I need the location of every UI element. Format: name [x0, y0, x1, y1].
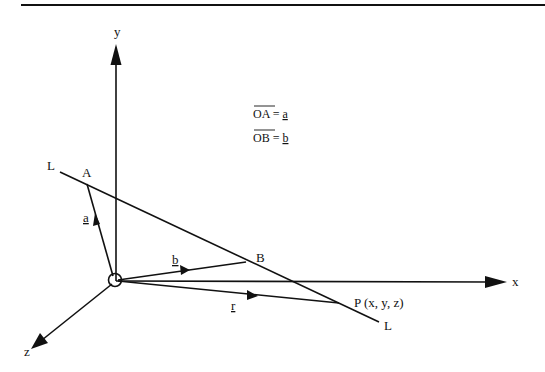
point-A-label: A — [82, 165, 92, 180]
svg-text:OB = b: OB = b — [253, 131, 288, 145]
vector-b: b — [118, 252, 246, 280]
y-axis-label: y — [114, 24, 121, 39]
vector-r-label: r — [231, 298, 236, 313]
equation-OA-rhs: a — [282, 107, 288, 121]
svg-text:OA = a: OA = a — [253, 107, 288, 121]
equation-OA: OA = a — [253, 106, 288, 121]
vector-r: r — [118, 281, 339, 313]
equation-OB-lhs: OB — [253, 131, 270, 145]
point-B-label: B — [256, 250, 265, 265]
diagram-canvas: y x z L L a A b — [0, 0, 545, 372]
vector-a: a — [83, 184, 113, 276]
vector-b-arrowhead-icon — [180, 265, 190, 275]
point-P-label: P (x, y, z) — [354, 295, 404, 310]
equation-OA-eq: = — [270, 107, 283, 121]
vector-a-label: a — [83, 210, 89, 225]
line-L-start-label: L — [47, 158, 55, 173]
equation-OB-rhs: b — [282, 131, 288, 145]
y-axis: y — [111, 24, 122, 281]
equation-OB: OB = b — [253, 130, 288, 145]
z-axis: z — [24, 284, 112, 359]
z-axis-arrowhead-icon — [31, 333, 48, 349]
line-L: L L — [47, 158, 392, 333]
line-L-end-label: L — [384, 318, 392, 333]
equation-OB-eq: = — [270, 131, 283, 145]
y-axis-arrowhead-icon — [111, 44, 122, 65]
equation-OA-lhs: OA — [253, 107, 271, 121]
z-axis-label: z — [24, 344, 30, 359]
x-axis-label: x — [512, 274, 519, 289]
vector-b-label: b — [172, 252, 179, 267]
x-axis-arrowhead-icon — [485, 276, 507, 288]
